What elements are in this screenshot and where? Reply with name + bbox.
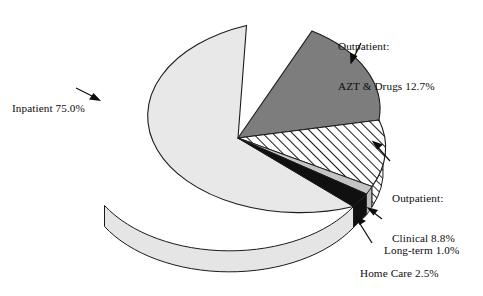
pie-chart-figure: Inpatient 75.0% Outpatient: AZT & Drugs … [0,0,483,296]
slice-label-outpatient-clinical-line1: Outpatient: [392,192,455,205]
slice-label-homecare: Home Care 2.5% [360,241,439,296]
leader-arrow-longterm [367,207,383,219]
side-wall-inpatient [105,206,354,272]
slice-label-azt-drugs-line1: Outpatient: [338,40,435,53]
slice-label-inpatient-line1: Inpatient 75.0% [12,102,85,115]
slice-label-azt-drugs-line2: AZT & Drugs 12.7% [338,80,435,93]
slice-label-azt-drugs: Outpatient: AZT & Drugs 12.7% [338,14,435,120]
slice-label-inpatient: Inpatient 75.0% [12,76,85,142]
slice-label-homecare-line1: Home Care 2.5% [360,267,439,280]
leader-arrow-homecare [355,216,372,244]
